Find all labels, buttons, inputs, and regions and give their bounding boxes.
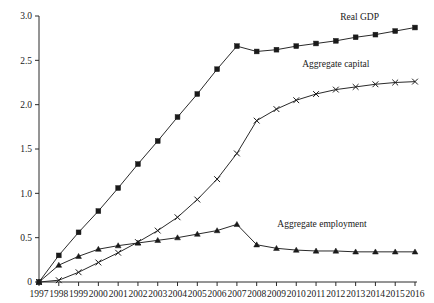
y-tick-label: 2.0 [20, 100, 32, 110]
data-point-marker [234, 44, 239, 49]
chart-container: 00.51.01.52.02.53.0 19971998199920002001… [0, 0, 434, 303]
x-tick-label: 2011 [307, 289, 326, 299]
x-tick-label: 2005 [188, 289, 207, 299]
x-tick-label: 2003 [148, 289, 167, 299]
data-point-marker [234, 221, 240, 226]
data-point-marker [56, 262, 62, 267]
data-point-marker [254, 49, 259, 54]
x-tick-label: 2012 [326, 289, 345, 299]
data-point-marker [293, 97, 299, 103]
x-tick-label: 2008 [247, 289, 266, 299]
data-point-marker [95, 260, 101, 266]
x-tick-label: 2014 [366, 289, 385, 299]
data-point-marker [234, 151, 240, 157]
x-tick-label: 2002 [128, 289, 147, 299]
data-point-marker [76, 269, 82, 275]
data-point-marker [294, 44, 299, 49]
y-tick-label: 1.0 [20, 189, 32, 199]
x-tick-label: 2010 [287, 289, 306, 299]
data-point-marker [413, 25, 418, 30]
series-line [39, 224, 415, 282]
data-point-marker [274, 47, 279, 52]
data-point-marker [194, 197, 200, 203]
series-label-aggregate-employment: Aggregate employment [277, 219, 367, 229]
series-label-aggregate-capital: Aggregate capital [302, 59, 370, 69]
series-aggregate-employment [36, 221, 418, 284]
data-point-marker [155, 228, 161, 234]
data-point-marker [96, 209, 101, 214]
data-point-marker [115, 250, 121, 256]
x-tick-label: 2000 [89, 289, 108, 299]
x-axis: 1997199819992000200120022003200420052006… [30, 282, 425, 299]
y-axis-ticks: 00.51.01.52.02.53.0 [20, 11, 39, 287]
x-tick-label: 1997 [30, 289, 49, 299]
y-tick-label: 3.0 [20, 11, 32, 21]
x-tick-label: 2013 [346, 289, 365, 299]
x-tick-label: 1998 [49, 289, 68, 299]
x-axis-ticks: 1997199819992000200120022003200420052006… [30, 282, 425, 299]
y-tick-label: 2.5 [20, 56, 32, 66]
data-point-marker [393, 29, 398, 34]
y-axis: 00.51.01.52.02.53.0 [20, 11, 39, 287]
line-chart: 00.51.01.52.02.53.0 19971998199920002001… [0, 0, 434, 303]
series-label-real-gdp: Real GDP [340, 12, 379, 22]
x-tick-label: 2004 [168, 289, 187, 299]
data-point-marker [175, 214, 181, 220]
data-point-marker [373, 32, 378, 37]
series-aggregate-capital [36, 79, 418, 285]
data-point-marker [254, 118, 260, 124]
y-tick-label: 1.5 [20, 144, 32, 154]
data-point-marker [214, 176, 220, 182]
data-point-marker [116, 186, 121, 191]
x-tick-label: 2016 [406, 289, 425, 299]
x-tick-label: 1999 [69, 289, 88, 299]
data-point-marker [76, 230, 81, 235]
data-point-marker [175, 115, 180, 120]
x-tick-label: 2009 [267, 289, 286, 299]
x-tick-label: 2007 [227, 289, 246, 299]
data-point-marker [274, 106, 280, 112]
x-tick-label: 2015 [386, 289, 405, 299]
y-tick-label: 0.5 [20, 233, 32, 243]
x-tick-label: 2006 [208, 289, 227, 299]
data-point-marker [215, 67, 220, 72]
y-tick-label: 0 [27, 277, 32, 287]
series-labels-group: Real GDPAggregate capitalAggregate emplo… [277, 12, 379, 229]
data-point-marker [56, 253, 61, 258]
data-point-marker [195, 92, 200, 97]
data-point-marker [136, 162, 141, 167]
data-point-marker [353, 35, 358, 40]
data-point-marker [314, 41, 319, 46]
x-tick-label: 2001 [109, 289, 128, 299]
data-point-marker [155, 139, 160, 144]
data-point-marker [333, 38, 338, 43]
